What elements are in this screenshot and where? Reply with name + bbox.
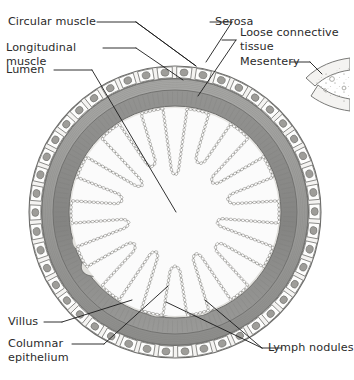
columnar-epithelium-cell [182, 132, 185, 135]
columnar-epithelium-cell [269, 200, 272, 202]
label-circular-muscle: Circular muscle [2, 15, 96, 28]
columnar-epithelium-cell [253, 201, 256, 203]
columnar-epithelium-cell [140, 115, 143, 119]
serosa-cell-nucleus [309, 226, 317, 235]
columnar-epithelium-cell [149, 142, 152, 146]
columnar-epithelium-cell [169, 160, 172, 163]
columnar-epithelium-cell [184, 120, 187, 123]
serosa-cell-nucleus [311, 208, 318, 216]
columnar-epithelium-cell [83, 221, 86, 224]
columnar-epithelium-cell [148, 110, 152, 113]
columnar-epithelium-cell [155, 251, 158, 254]
columnar-epithelium-cell [162, 111, 165, 114]
columnar-epithelium-cell [163, 119, 166, 122]
columnar-epithelium-cell [200, 137, 203, 141]
columnar-epithelium-cell [153, 158, 156, 162]
serosa-cell-nucleus [180, 69, 188, 76]
columnar-epithelium-cell [160, 314, 163, 317]
columnar-epithelium-cell [184, 302, 187, 305]
columnar-epithelium-cell [185, 116, 188, 119]
label-villus: Villus [8, 315, 38, 328]
label-columnar-epithelium-line2: epithelium [8, 351, 69, 364]
columnar-epithelium-cell [278, 212, 280, 215]
columnar-epithelium-cell [236, 202, 239, 204]
columnar-epithelium-cell [118, 298, 122, 301]
columnar-epithelium-cell [211, 182, 214, 185]
columnar-epithelium-cell [152, 109, 155, 112]
columnar-epithelium-cell [70, 218, 72, 221]
columnar-epithelium-cell [196, 149, 199, 153]
label-mesentery: Mesentery [240, 55, 300, 68]
columnar-epithelium-cell [199, 141, 202, 145]
serosa-cell-nucleus [33, 189, 41, 198]
columnar-epithelium-cell [70, 210, 72, 213]
columnar-epithelium-cell [144, 126, 147, 130]
columnar-epithelium-cell [229, 218, 232, 221]
label-lumen: Lumen [6, 63, 45, 76]
columnar-epithelium-cell [177, 169, 180, 172]
columnar-epithelium-cell [70, 206, 72, 209]
columnar-epithelium-cell [195, 157, 198, 161]
columnar-epithelium-cell [147, 311, 151, 314]
serosa-cell-nucleus [181, 348, 189, 356]
columnar-epithelium-cell [168, 156, 171, 159]
columnar-epithelium-cell [262, 221, 265, 224]
columnar-epithelium-cell [197, 109, 201, 112]
columnar-epithelium-cell [182, 136, 185, 139]
columnar-epithelium-cell [120, 218, 123, 221]
columnar-epithelium-cell [163, 115, 166, 118]
serosa-cell-nucleus [32, 209, 39, 217]
columnar-epithelium-cell [249, 201, 252, 203]
columnar-epithelium-cell [142, 119, 145, 123]
columnar-epithelium-cell [168, 152, 171, 155]
columnar-epithelium-cell [205, 121, 208, 125]
columnar-epithelium-cell [202, 129, 205, 133]
columnar-epithelium-cell [108, 202, 111, 204]
columnar-epithelium-cell [183, 294, 186, 297]
columnar-epithelium-cell [167, 144, 170, 147]
columnar-epithelium-cell [178, 165, 181, 168]
columnar-epithelium-cell [198, 145, 201, 149]
columnar-epithelium-cell [181, 286, 184, 289]
label-longitudinal-muscle-line1: Longitudinal [6, 41, 76, 54]
columnar-epithelium-cell [233, 218, 236, 221]
columnar-epithelium-cell [167, 279, 170, 282]
columnar-epithelium-cell [95, 220, 98, 223]
columnar-epithelium-cell [179, 274, 182, 277]
columnar-epithelium-cell [163, 303, 166, 306]
columnar-epithelium-cell [245, 219, 248, 222]
columnar-epithelium-cell [194, 312, 197, 315]
columnar-epithelium-cell [180, 278, 183, 281]
columnar-epithelium-cell [167, 148, 170, 151]
columnar-epithelium-cell [249, 220, 252, 223]
columnar-epithelium-cell [278, 208, 280, 211]
columnar-epithelium-cell [148, 138, 151, 142]
columnar-epithelium-cell [166, 135, 169, 138]
columnar-epithelium-cell [107, 219, 110, 222]
columnar-epithelium-cell [274, 222, 277, 225]
columnar-epithelium-cell [152, 154, 155, 158]
columnar-epithelium-cell [141, 184, 143, 187]
columnar-epithelium-cell [185, 112, 188, 115]
columnar-epithelium-cell [152, 312, 156, 315]
columnar-epithelium-cell [241, 202, 244, 204]
columnar-epithelium-cell [103, 219, 106, 222]
columnar-epithelium-cell [100, 202, 103, 204]
columnar-epithelium-cell [241, 219, 244, 222]
columnar-epithelium-cell [70, 214, 72, 217]
columnar-epithelium-cell [207, 113, 210, 117]
columnar-epithelium-cell [179, 152, 182, 155]
columnar-epithelium-cell [237, 219, 240, 222]
columnar-epithelium-cell [79, 221, 82, 224]
columnar-epithelium-cell [115, 219, 118, 222]
columnar-epithelium-cell [169, 164, 172, 167]
columnar-epithelium-cell [151, 150, 154, 154]
columnar-epithelium-cell [166, 139, 169, 142]
columnar-epithelium-cell [261, 201, 264, 203]
label-loose-connective-tissue-line1: Loose connective [240, 26, 339, 39]
columnar-epithelium-cell [143, 122, 146, 126]
serosa-cell-nucleus [33, 227, 41, 236]
columnar-epithelium-cell [262, 265, 265, 268]
label-lymph-nodules: Lymph nodules [268, 341, 354, 354]
columnar-epithelium-cell [193, 108, 196, 111]
